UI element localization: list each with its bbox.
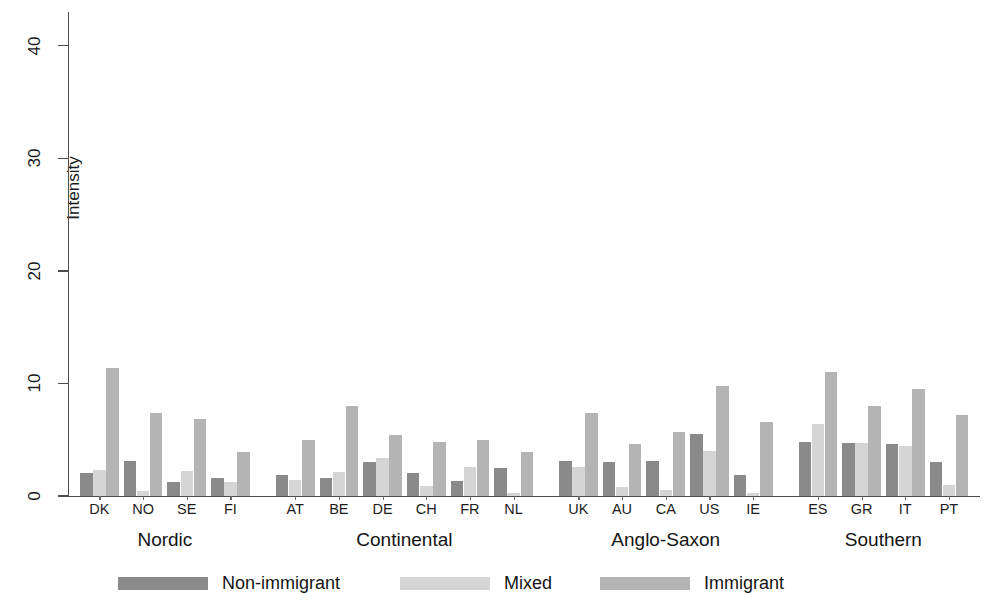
bar-de-immigrant	[389, 435, 402, 496]
bar-au-immigrant	[629, 444, 642, 496]
x-axis-tick	[818, 496, 819, 500]
bar-nl-non-immigrant	[494, 468, 507, 496]
x-axis-tick	[339, 496, 340, 500]
bar-dk-immigrant	[106, 368, 119, 496]
bar-be-immigrant	[346, 406, 359, 496]
bar-no-immigrant	[150, 413, 163, 496]
bar-ch-immigrant	[433, 442, 446, 496]
legend-label: Immigrant	[704, 573, 784, 594]
bar-it-mixed	[899, 446, 912, 496]
bar-no-non-immigrant	[124, 461, 137, 496]
bar-uk-immigrant	[585, 413, 598, 496]
bar-fr-immigrant	[477, 440, 490, 496]
x-axis-tick	[143, 496, 144, 500]
bar-fi-non-immigrant	[211, 478, 224, 496]
x-axis-tick	[709, 496, 710, 500]
x-axis-tick	[622, 496, 623, 500]
x-axis-tick	[295, 496, 296, 500]
bar-au-non-immigrant	[603, 462, 616, 496]
bar-fr-non-immigrant	[451, 481, 464, 496]
bar-ch-non-immigrant	[407, 473, 420, 496]
bar-pt-immigrant	[956, 415, 969, 496]
x-axis-tick	[470, 496, 471, 500]
bar-be-non-immigrant	[320, 478, 333, 496]
bar-au-mixed	[616, 487, 629, 496]
bar-pt-mixed	[943, 485, 956, 496]
bar-ca-immigrant	[673, 432, 686, 496]
bar-fi-immigrant	[237, 452, 250, 496]
bar-be-mixed	[333, 472, 346, 496]
bar-at-non-immigrant	[276, 475, 289, 496]
x-axis-tick	[187, 496, 188, 500]
x-axis-tick	[426, 496, 427, 500]
bar-ie-non-immigrant	[734, 475, 747, 496]
x-axis-tick	[383, 496, 384, 500]
x-axis-tick	[753, 496, 754, 500]
bar-us-immigrant	[716, 386, 729, 496]
bar-ie-immigrant	[760, 422, 773, 496]
x-tick-label-fi: FI	[205, 501, 256, 517]
legend-swatch-icon	[118, 577, 208, 590]
bar-ca-non-immigrant	[646, 461, 659, 496]
x-tick-label-pt: PT	[924, 501, 975, 517]
legend-swatch-icon	[600, 577, 690, 590]
bar-fi-mixed	[224, 482, 237, 496]
bar-it-immigrant	[912, 389, 925, 496]
bar-de-non-immigrant	[363, 462, 376, 496]
x-axis-tick	[514, 496, 515, 500]
x-tick-label-nl: NL	[488, 501, 539, 517]
x-axis-tick	[99, 496, 100, 500]
bar-uk-non-immigrant	[559, 461, 572, 496]
bar-us-mixed	[703, 451, 716, 496]
bar-gr-non-immigrant	[842, 443, 855, 496]
x-axis-tick	[578, 496, 579, 500]
bar-es-immigrant	[825, 372, 838, 496]
bar-at-mixed	[289, 480, 302, 496]
bar-se-mixed	[181, 471, 194, 496]
x-tick-label-ie: IE	[728, 501, 779, 517]
group-label-southern: Southern	[759, 529, 984, 551]
bar-uk-mixed	[572, 467, 585, 496]
bar-dk-mixed	[93, 470, 106, 496]
bar-fr-mixed	[464, 467, 477, 496]
x-axis-tick	[862, 496, 863, 500]
bar-at-immigrant	[302, 440, 315, 496]
x-axis-tick	[666, 496, 667, 500]
bars-layer	[0, 0, 844, 497]
bar-gr-mixed	[855, 443, 868, 496]
bar-se-immigrant	[194, 419, 207, 496]
bar-nl-immigrant	[521, 452, 534, 496]
legend-label: Mixed	[504, 573, 552, 594]
bar-se-non-immigrant	[167, 482, 180, 496]
x-axis-tick	[905, 496, 906, 500]
bar-de-mixed	[376, 458, 389, 496]
bar-dk-non-immigrant	[80, 473, 93, 496]
bar-us-non-immigrant	[690, 434, 703, 496]
bar-es-mixed	[812, 424, 825, 496]
bar-it-non-immigrant	[886, 444, 899, 496]
bar-pt-non-immigrant	[930, 462, 943, 496]
legend-label: Non-immigrant	[222, 573, 340, 594]
x-axis-tick	[230, 496, 231, 500]
bar-gr-immigrant	[868, 406, 881, 496]
bar-ch-mixed	[420, 486, 433, 496]
chart-legend: Non-immigrantMixedImmigrant	[0, 573, 844, 603]
x-axis-tick	[949, 496, 950, 500]
legend-swatch-icon	[400, 577, 490, 590]
bar-es-non-immigrant	[799, 442, 812, 496]
